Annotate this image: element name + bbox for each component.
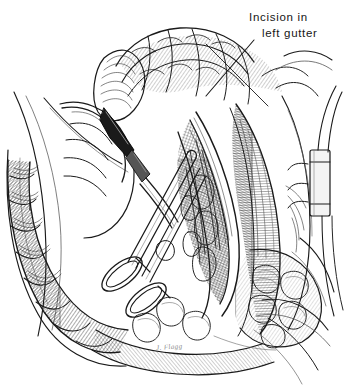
surgical-illustration-figure: Incision in left gutter J. Flagg (0, 0, 344, 386)
illustration-ink-group (0, 24, 343, 386)
gutter-tissue-lower (133, 297, 211, 342)
small-bowel-loops (110, 24, 290, 104)
omental-fat (236, 244, 330, 354)
scalpel (100, 108, 178, 228)
illustration-canvas (0, 0, 344, 386)
incision-line (170, 110, 240, 320)
surgical-drape-bottom (88, 318, 318, 386)
